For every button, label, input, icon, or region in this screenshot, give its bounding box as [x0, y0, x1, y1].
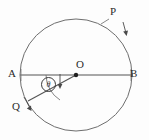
- label-point-o: O: [76, 59, 84, 70]
- q-arrow-shaft: [24, 97, 30, 108]
- p-arrow-head: [123, 31, 128, 36]
- diagram-canvas: [0, 0, 149, 140]
- angle-theta-marker: θ: [41, 77, 56, 92]
- label-point-p: P: [110, 6, 116, 17]
- center-point-dot: [74, 73, 78, 77]
- angle-arrow-head: [58, 84, 63, 89]
- label-point-b: B: [130, 68, 137, 79]
- label-point-a: A: [8, 68, 16, 79]
- p-leader-line: [101, 19, 109, 24]
- geometry-diagram: A B O P Q θ: [0, 0, 149, 140]
- label-point-q: Q: [12, 101, 20, 112]
